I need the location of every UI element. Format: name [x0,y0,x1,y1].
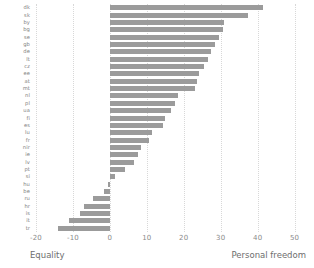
y-axis-label-fr: fr [26,137,30,144]
y-axis-label-es: es [24,122,30,129]
bar-pt [110,167,125,172]
bar-fr [110,138,149,143]
bar-it [69,218,110,223]
bar-be [104,189,110,194]
bar-row [36,100,302,107]
bar-nir [110,145,141,150]
y-axis-label-ua: ua [23,107,30,114]
bar-row [36,159,302,166]
bar-row [36,19,302,26]
y-axis-label-se: se [24,34,30,41]
bar-gb [110,42,215,47]
y-axis-label-bg: bg [23,26,30,33]
bar-row [36,203,302,210]
bar-lt [110,57,208,62]
bar-row [36,210,302,217]
bar-row [36,188,302,195]
bar-rows [36,4,302,232]
bar-es [110,123,164,128]
bar-at [110,79,197,84]
y-axis-label-it: it [26,217,30,224]
bar-row [36,115,302,122]
bar-row [36,144,302,151]
bar-row [36,137,302,144]
bar-row [36,78,302,85]
y-axis-label-fi: fi [27,115,30,122]
x-axis-ticks: -20-1001020304050 [36,234,302,248]
x-axis-tick-0: 0 [108,234,113,242]
bar-de [110,49,212,54]
bar-row [36,129,302,136]
bar-row [36,151,302,158]
bar-nl [110,93,178,98]
bar-cz [110,64,204,69]
y-axis-label-nl: nl [25,92,30,99]
y-axis-label-at: at [25,78,30,85]
x-axis-tick--20: -20 [30,234,42,242]
bar-hu [108,182,110,187]
bar-bg [110,27,223,32]
bar-ua [110,108,171,113]
bar-dk [110,5,263,10]
y-axis-label-hu: hu [23,181,30,188]
y-axis-label-lv: lv [25,159,30,166]
bar-row [36,166,302,173]
y-axis-label-is: is [26,210,30,217]
bar-row [36,122,302,129]
bar-row [36,56,302,63]
bar-row [36,92,302,99]
bar-ie [110,152,138,157]
y-axis-label-cz: cz [24,63,30,70]
plot-area [36,4,302,232]
y-axis-label-ru: ru [24,195,30,202]
x-axis-tick-30: 30 [216,234,225,242]
y-axis-label-sk: sk [24,12,30,19]
bar-row [36,63,302,70]
y-axis-label-si: si [26,173,30,180]
bar-by [110,20,225,25]
bar-hr [84,204,110,209]
bar-row [36,26,302,33]
bar-lu [110,130,152,135]
bar-row [36,217,302,224]
bar-row [36,41,302,48]
bar-mt [110,86,195,91]
bar-row [36,173,302,180]
x-axis-tick-40: 40 [253,234,262,242]
bar-tr [58,226,110,231]
bar-si [110,174,116,179]
x-axis-tick--10: -10 [67,234,79,242]
bar-row [36,85,302,92]
axis-caption-personal-freedom: Personal freedom [232,250,306,260]
y-axis-label-gb: gb [23,41,30,48]
y-axis-label-de: de [23,48,30,55]
y-axis-label-hr: hr [24,203,30,210]
x-axis-tick-50: 50 [290,234,299,242]
bar-row [36,225,302,232]
bar-chart: dkskbybgsegbdeltczeeatmtnlpluafieslufrni… [0,0,314,268]
x-axis-tick-10: 10 [142,234,151,242]
y-axis-label-dk: dk [24,4,31,11]
y-axis-label-pl: pl [25,100,30,107]
y-axis-labels: dkskbybgsegbdeltczeeatmtnlpluafieslufrni… [0,4,34,232]
bar-row [36,48,302,55]
bar-fi [110,116,165,121]
y-axis-label-be: be [23,188,30,195]
bar-row [36,70,302,77]
bar-row [36,181,302,188]
y-axis-label-ie: ie [25,151,30,158]
bar-row [36,12,302,19]
bar-pl [110,101,175,106]
y-axis-label-by: by [23,19,30,26]
y-axis-label-mt: mt [23,85,30,92]
axis-caption-equality: Equality [30,250,64,260]
bar-sk [110,13,249,18]
bar-row [36,195,302,202]
bar-row [36,34,302,41]
bar-row [36,107,302,114]
bar-row [36,4,302,11]
y-axis-label-lt: lt [26,56,30,63]
bar-ee [110,71,199,76]
bar-is [80,211,110,216]
y-axis-label-ee: ee [23,70,30,77]
